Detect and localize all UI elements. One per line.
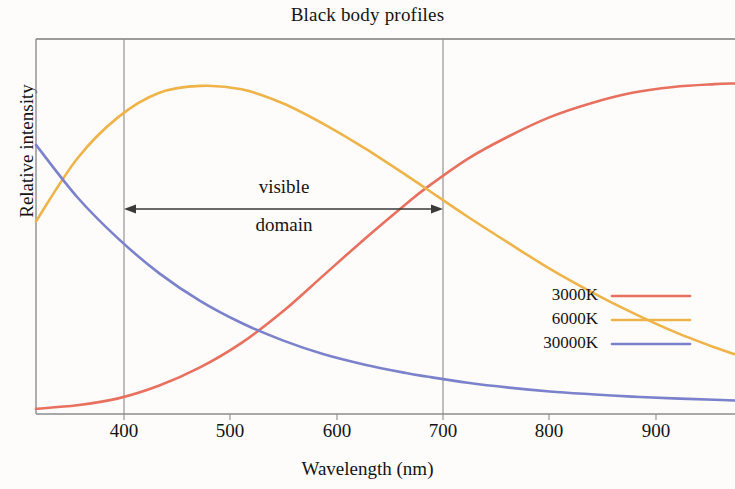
- chart-page: Black body profiles Relative intensity: [0, 0, 735, 489]
- series-line-30000K: [36, 145, 735, 401]
- legend-label-3000K: 3000K: [478, 285, 598, 305]
- legend-label-6000K: 6000K: [478, 309, 598, 329]
- series-line-3000K: [36, 83, 735, 408]
- x-axis-label: Wavelength (nm): [0, 458, 735, 480]
- x-tick-label-900: 900: [626, 420, 686, 442]
- x-tick-label-800: 800: [519, 420, 579, 442]
- legend-swatches: [612, 296, 690, 344]
- x-tick-label-500: 500: [200, 420, 260, 442]
- annotation-visible: visible: [194, 176, 374, 198]
- legend-label-30000K: 30000K: [478, 333, 598, 353]
- x-tick-label-600: 600: [307, 420, 367, 442]
- annotation-domain: domain: [194, 214, 374, 236]
- x-tick-label-400: 400: [94, 420, 154, 442]
- x-tick-label-700: 700: [413, 420, 473, 442]
- plot-area: [0, 0, 735, 489]
